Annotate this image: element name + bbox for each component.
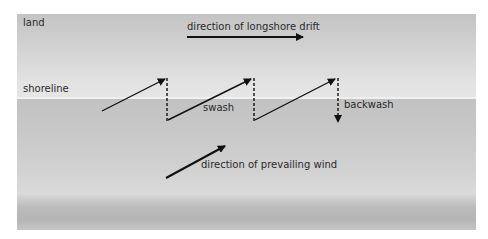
swash-arrow-icon	[102, 79, 165, 111]
arrows-layer	[17, 14, 476, 230]
swash-arrow-icon	[255, 79, 335, 120]
longshore-drift-diagram: land shoreline direction of longshore dr…	[17, 14, 476, 230]
prevailing-wind-arrow-icon	[166, 146, 225, 178]
swash-arrow-icon	[168, 79, 251, 120]
